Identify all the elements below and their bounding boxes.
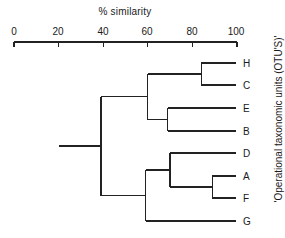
y-axis-title-text: 'Operational taxonomic units (OTU'S)' — [273, 36, 284, 203]
merge-EB — [168, 108, 236, 131]
merge-DAF-G — [146, 170, 236, 221]
merge-root — [59, 97, 148, 196]
leaf-label-G: G — [243, 216, 251, 227]
leaf-label-H: H — [243, 58, 250, 69]
merge-HC-EB — [148, 74, 201, 120]
merge-HC — [201, 63, 236, 85]
merge-AF — [212, 176, 236, 198]
leaf-label-A: A — [243, 171, 250, 182]
leaf-label-D: D — [243, 148, 250, 159]
leaf-label-E: E — [243, 103, 250, 114]
leaf-label-B: B — [243, 126, 250, 137]
leaf-label-F: F — [243, 193, 249, 204]
merge-D-AF — [170, 153, 236, 187]
x-axis — [14, 42, 237, 47]
y-axis-title: 'Operational taxonomic units (OTU'S)' — [270, 0, 285, 238]
leaf-label-C: C — [243, 80, 250, 91]
dendrogram-figure: % similarity 0 20 40 60 80 100 — [0, 0, 285, 238]
